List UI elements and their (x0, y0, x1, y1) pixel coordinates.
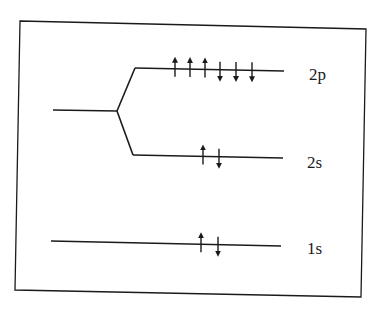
level-2p-line (135, 68, 284, 71)
unsplit-level-line (53, 110, 117, 111)
level-2p-label: 2p (309, 65, 326, 84)
branch-to-2p-line (117, 68, 135, 111)
level-1s-line (51, 241, 281, 246)
level-2s: 2s (133, 147, 322, 172)
level-1s-label: 1s (307, 239, 322, 258)
branch-to-2s-line (117, 111, 133, 155)
level-1s: 1s (51, 235, 322, 258)
level-2s-line (133, 155, 283, 158)
level-2s-label: 2s (307, 153, 322, 172)
energy-level-diagram: 2p 2s 1s (0, 0, 377, 309)
level-2p: 2p (135, 60, 326, 84)
splitting-lines (53, 68, 135, 155)
